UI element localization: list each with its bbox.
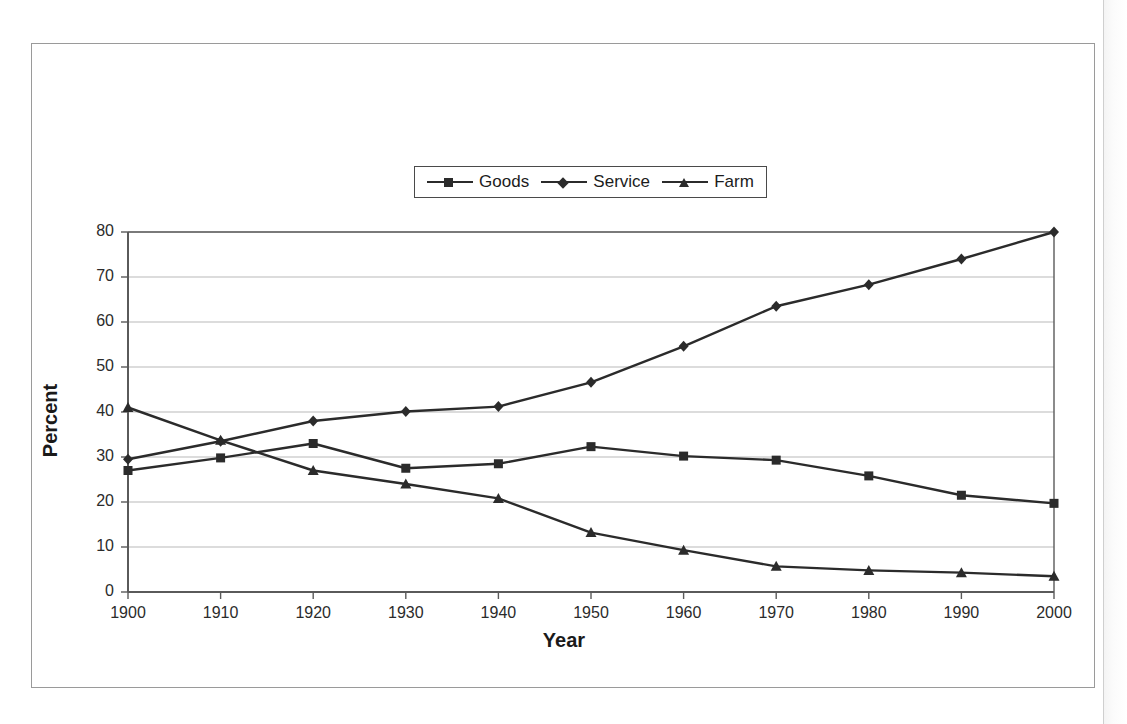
y-tick-label: 10 — [80, 537, 114, 555]
x-tick-label: 2000 — [1024, 604, 1084, 622]
series-line-service — [128, 232, 1054, 459]
data-point-goods-2000[interactable] — [1050, 499, 1059, 508]
x-tick-label: 1950 — [561, 604, 621, 622]
data-point-service-1940[interactable] — [493, 401, 503, 412]
series-line-farm — [128, 408, 1054, 577]
data-point-goods-1960[interactable] — [679, 452, 688, 461]
data-point-service-1980[interactable] — [864, 279, 874, 290]
x-tick-label: 1940 — [468, 604, 528, 622]
y-tick-label: 0 — [80, 582, 114, 600]
data-point-service-1990[interactable] — [956, 254, 966, 265]
plot-area: Percent Year 010203040506070801900191019… — [32, 44, 1096, 689]
data-point-service-1950[interactable] — [586, 377, 596, 388]
data-point-goods-1950[interactable] — [587, 442, 596, 451]
data-point-goods-1930[interactable] — [401, 464, 410, 473]
data-point-service-1900[interactable] — [123, 454, 133, 465]
data-point-service-2000[interactable] — [1049, 227, 1059, 238]
x-tick-label: 1900 — [98, 604, 158, 622]
y-tick-label: 70 — [80, 267, 114, 285]
x-tick-label: 1920 — [283, 604, 343, 622]
y-tick-label: 40 — [80, 402, 114, 420]
data-point-goods-1910[interactable] — [216, 453, 225, 462]
page-edge-line — [1103, 0, 1104, 724]
y-tick-label: 30 — [80, 447, 114, 465]
data-point-goods-1980[interactable] — [864, 471, 873, 480]
data-point-goods-1970[interactable] — [772, 456, 781, 465]
data-point-goods-1940[interactable] — [494, 459, 503, 468]
data-point-goods-1900[interactable] — [124, 466, 133, 475]
x-tick-label: 1990 — [931, 604, 991, 622]
y-axis-title: Percent — [39, 384, 62, 457]
data-point-service-1970[interactable] — [771, 301, 781, 312]
series-line-goods — [128, 444, 1054, 504]
data-point-service-1920[interactable] — [308, 416, 318, 427]
chart-frame: Goods Service Farm Percent Year 01020304… — [31, 43, 1095, 688]
x-axis-title: Year — [32, 629, 1096, 652]
y-tick-label: 20 — [80, 492, 114, 510]
y-tick-label: 60 — [80, 312, 114, 330]
x-tick-label: 1980 — [839, 604, 899, 622]
data-point-goods-1990[interactable] — [957, 491, 966, 500]
x-tick-label: 1930 — [376, 604, 436, 622]
data-point-service-1930[interactable] — [401, 406, 411, 417]
x-tick-label: 1970 — [746, 604, 806, 622]
y-tick-label: 50 — [80, 357, 114, 375]
data-point-service-1960[interactable] — [679, 341, 689, 352]
data-point-goods-1920[interactable] — [309, 439, 318, 448]
y-tick-label: 80 — [80, 222, 114, 240]
x-tick-label: 1960 — [654, 604, 714, 622]
x-tick-label: 1910 — [191, 604, 251, 622]
data-point-farm-1900[interactable] — [123, 402, 134, 412]
chart-canvas — [32, 44, 1096, 689]
page-edge-shading — [1104, 0, 1127, 724]
